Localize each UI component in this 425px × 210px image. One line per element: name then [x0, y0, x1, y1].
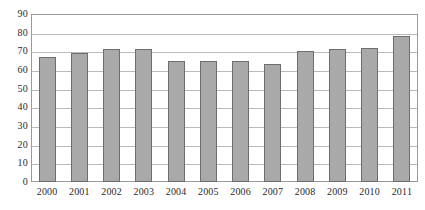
- y-tick-label-30: 30: [2, 121, 28, 131]
- bar-2003: [135, 49, 152, 182]
- bar-2004: [168, 61, 185, 182]
- x-tick-label-2011: 2011: [382, 186, 422, 197]
- y-tick-label-40: 40: [2, 102, 28, 112]
- bar-2001: [71, 53, 88, 182]
- bar-2010: [361, 48, 378, 182]
- bar-2009: [329, 49, 346, 182]
- y-tick-label-60: 60: [2, 65, 28, 75]
- x-axis: 2000200120022003200420052006200720082009…: [31, 186, 418, 202]
- bar-2002: [103, 49, 120, 182]
- bar-2006: [232, 61, 249, 182]
- y-tick-label-90: 90: [2, 9, 28, 19]
- y-tick-label-0: 0: [2, 177, 28, 187]
- y-tick-label-20: 20: [2, 140, 28, 150]
- y-tick-label-50: 50: [2, 84, 28, 94]
- bar-2011: [393, 36, 410, 182]
- bar-2008: [297, 51, 314, 182]
- y-tick-label-70: 70: [2, 46, 28, 56]
- bar-chart-screenshot: 90 80 70 60 50 40 30 20 10 0 20002001200…: [0, 0, 425, 210]
- bar-2007: [264, 64, 281, 182]
- bar-2000: [39, 57, 56, 182]
- y-tick-label-10: 10: [2, 158, 28, 168]
- y-axis: 90 80 70 60 50 40 30 20 10 0: [0, 0, 28, 210]
- bar-2005: [200, 61, 217, 182]
- y-tick-label-80: 80: [2, 28, 28, 38]
- bars-layer: [31, 14, 418, 182]
